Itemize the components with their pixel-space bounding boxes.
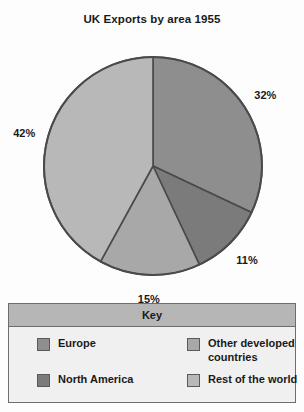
legend-header-label: Key bbox=[142, 309, 162, 321]
legend-label-rest-of-the-world: Rest of the world bbox=[208, 373, 297, 387]
pie-svg bbox=[0, 0, 304, 300]
pie-label-rest-of-the-world: 42% bbox=[13, 127, 35, 139]
legend-item-europe: Europe bbox=[37, 337, 187, 364]
legend-item-rest-of-the-world: Rest of the world bbox=[187, 373, 304, 387]
legend-label-europe: Europe bbox=[58, 337, 96, 351]
pie-label-north-america: 11% bbox=[236, 254, 257, 266]
legend-header: Key bbox=[9, 304, 295, 327]
legend-swatch-other-developed-countries bbox=[187, 338, 200, 351]
pie-chart-figure: UK Exports by area 1955 32%11%15%42% Key… bbox=[0, 0, 304, 412]
legend-items: Europe Other developed countries North A… bbox=[9, 327, 295, 387]
legend-item-other-developed-countries: Other developed countries bbox=[187, 337, 304, 364]
legend-label-other-developed-countries: Other developed countries bbox=[208, 337, 304, 364]
pie-chart-plot: 32%11%15%42% bbox=[0, 0, 304, 300]
legend: Key Europe Other developed countries Nor… bbox=[8, 303, 296, 403]
legend-label-north-america: North America bbox=[58, 373, 133, 387]
pie-label-europe: 32% bbox=[254, 89, 276, 101]
legend-swatch-north-america bbox=[37, 374, 50, 387]
legend-item-north-america: North America bbox=[37, 373, 187, 387]
legend-swatch-europe bbox=[37, 338, 50, 351]
legend-swatch-rest-of-the-world bbox=[187, 374, 200, 387]
